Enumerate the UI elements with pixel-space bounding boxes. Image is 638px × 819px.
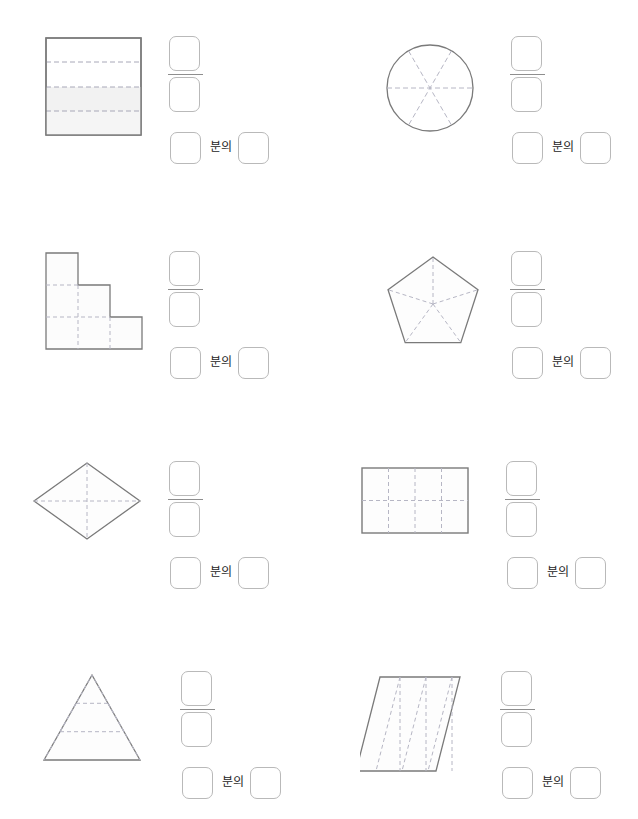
denominator-box[interactable]	[169, 77, 200, 112]
answer-group-6: 분의	[505, 455, 638, 615]
figure-triangle-nine-triangles	[35, 665, 185, 819]
fraction-bar	[168, 74, 203, 75]
numerator-box[interactable]	[501, 671, 532, 706]
problem-3: 분의	[40, 245, 340, 445]
numerator-box[interactable]	[169, 36, 200, 71]
answer-group-2: 분의	[510, 30, 638, 190]
words-denominator-box[interactable]	[507, 557, 538, 589]
answer-group-4: 분의	[510, 245, 638, 405]
bunui-label: 분의	[546, 354, 580, 370]
words-row: 분의	[510, 345, 638, 385]
denominator-box[interactable]	[511, 292, 542, 327]
words-row: 분의	[168, 130, 318, 170]
figure-rhombus-four-triangles	[28, 455, 178, 615]
words-row: 분의	[510, 130, 638, 170]
problem-5: 분의	[28, 455, 328, 655]
answer-group-3: 분의	[168, 245, 318, 405]
answer-group-7: 분의	[180, 665, 330, 819]
words-row: 분의	[180, 765, 330, 805]
numerator-box[interactable]	[169, 251, 200, 286]
problem-6: 분의	[355, 455, 638, 655]
answer-group-1: 분의	[168, 30, 318, 190]
numerator-box[interactable]	[506, 461, 537, 496]
bunui-label: 분의	[204, 139, 238, 155]
denominator-box[interactable]	[181, 712, 212, 747]
bunui-label: 분의	[204, 354, 238, 370]
fraction-bar	[500, 709, 535, 710]
problem-1: 분의	[40, 30, 340, 230]
words-denominator-box[interactable]	[512, 347, 543, 379]
words-denominator-box[interactable]	[170, 132, 201, 164]
numerator-box[interactable]	[511, 36, 542, 71]
words-row: 분의	[500, 765, 638, 805]
words-denominator-box[interactable]	[182, 767, 213, 799]
words-row: 분의	[505, 555, 638, 595]
words-numerator-box[interactable]	[238, 347, 269, 379]
bunui-label: 분의	[541, 564, 575, 580]
fraction-bar	[168, 289, 203, 290]
numerator-box[interactable]	[511, 251, 542, 286]
words-numerator-box[interactable]	[250, 767, 281, 799]
bunui-label: 분의	[546, 139, 580, 155]
denominator-box[interactable]	[501, 712, 532, 747]
words-denominator-box[interactable]	[502, 767, 533, 799]
fraction-bar	[168, 499, 203, 500]
denominator-box[interactable]	[169, 292, 200, 327]
words-numerator-box[interactable]	[580, 347, 611, 379]
fraction-bar	[505, 499, 540, 500]
bunui-label: 분의	[536, 774, 570, 790]
fraction-bar	[180, 709, 215, 710]
fraction-bar	[510, 74, 545, 75]
words-numerator-box[interactable]	[580, 132, 611, 164]
answer-group-8: 분의	[500, 665, 638, 819]
words-denominator-box[interactable]	[170, 347, 201, 379]
denominator-box[interactable]	[169, 502, 200, 537]
fraction-bar	[510, 289, 545, 290]
numerator-box[interactable]	[169, 461, 200, 496]
words-denominator-box[interactable]	[170, 557, 201, 589]
problem-8: 분의	[360, 665, 638, 819]
bunui-label: 분의	[204, 564, 238, 580]
figure-parallelogram-four-strips	[360, 665, 510, 819]
words-numerator-box[interactable]	[238, 557, 269, 589]
words-row: 분의	[168, 345, 318, 385]
problem-4: 분의	[382, 245, 638, 445]
problem-7: 분의	[35, 665, 335, 819]
numerator-box[interactable]	[181, 671, 212, 706]
words-numerator-box[interactable]	[238, 132, 269, 164]
figure-rectangle-grid-eight	[355, 455, 505, 615]
words-denominator-box[interactable]	[512, 132, 543, 164]
denominator-box[interactable]	[511, 77, 542, 112]
problem-2: 분의	[382, 30, 638, 230]
words-row: 분의	[168, 555, 318, 595]
words-numerator-box[interactable]	[570, 767, 601, 799]
worksheet-page: 분의 분의	[0, 0, 638, 819]
answer-group-5: 분의	[168, 455, 318, 615]
denominator-box[interactable]	[506, 502, 537, 537]
bunui-label: 분의	[216, 774, 250, 790]
words-numerator-box[interactable]	[575, 557, 606, 589]
